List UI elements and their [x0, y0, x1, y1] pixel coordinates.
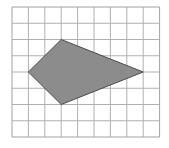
- grid-diagram: [0, 0, 169, 148]
- shaded-quadrilateral: [28, 40, 143, 105]
